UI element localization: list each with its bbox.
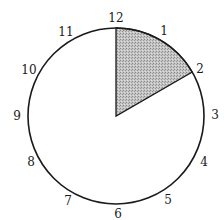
shaded-sector-12-to-2 — [116, 28, 192, 116]
hour-label-12: 12 — [108, 11, 123, 25]
hour-label-2: 2 — [196, 62, 204, 76]
clock-diagram: 121234567891011 — [0, 0, 224, 220]
hour-label-6: 6 — [114, 207, 122, 220]
hour-label-4: 4 — [200, 155, 208, 169]
hour-label-5: 5 — [164, 193, 172, 207]
hour-label-3: 3 — [211, 108, 219, 122]
hour-label-8: 8 — [27, 155, 35, 169]
hour-label-1: 1 — [160, 24, 168, 38]
hour-label-11: 11 — [58, 25, 73, 39]
hour-label-7: 7 — [64, 194, 72, 208]
hour-label-10: 10 — [21, 63, 36, 77]
shaded-sector — [116, 28, 192, 116]
hour-label-9: 9 — [13, 109, 21, 123]
